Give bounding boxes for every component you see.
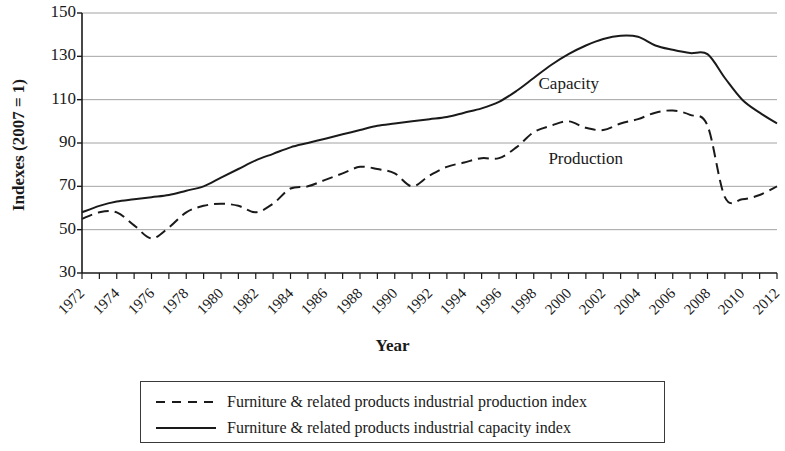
- series-line-production: [82, 110, 777, 238]
- y-tick-label: 50: [36, 219, 76, 239]
- legend-line-swatch: [155, 422, 217, 434]
- legend-label: Furniture & related products industrial …: [227, 393, 587, 411]
- series-line-capacity: [82, 36, 777, 213]
- legend-line-swatch: [155, 396, 217, 408]
- y-tick-label: 30: [36, 262, 76, 282]
- chart-figure: Indexes (2007 = 1) 30507090110130150 197…: [0, 0, 785, 451]
- y-tick-label: 70: [36, 175, 76, 195]
- y-tick-label: 130: [36, 45, 76, 65]
- y-tick-label: 90: [36, 132, 76, 152]
- y-tick-label: 110: [36, 89, 76, 109]
- annotation-production: Production: [548, 149, 623, 169]
- legend-item: Furniture & related products industrial …: [141, 415, 571, 441]
- chart-legend: Furniture & related products industrial …: [140, 381, 665, 443]
- legend-item: Furniture & related products industrial …: [141, 389, 587, 415]
- x-axis-title: Year: [0, 336, 785, 356]
- legend-label: Furniture & related products industrial …: [227, 419, 571, 437]
- y-tick-label: 150: [36, 2, 76, 22]
- annotation-capacity: Capacity: [539, 74, 599, 94]
